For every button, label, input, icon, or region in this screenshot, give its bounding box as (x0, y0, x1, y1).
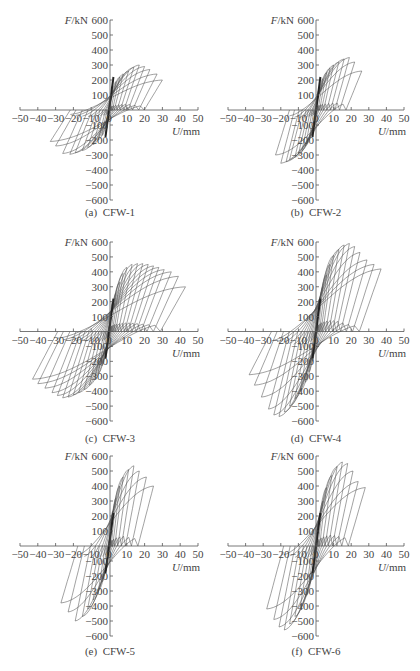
y-tick-label: 100 (92, 311, 109, 323)
y-tick-label: −200 (85, 570, 108, 582)
x-tick-label: −50 (219, 112, 237, 124)
chart-caption: (e) CFW-5 (85, 645, 136, 658)
x-tick-label: 0 (313, 334, 319, 346)
y-tick-label: 600 (298, 450, 315, 462)
chart-caption: (b) CFW-2 (291, 206, 342, 219)
y-tick-label: −600 (85, 630, 108, 642)
y-tick-label: 500 (92, 251, 109, 263)
x-tick-label: 50 (193, 112, 205, 124)
x-tick-label: −30 (255, 334, 273, 346)
y-tick-label: −600 (85, 194, 108, 206)
y-tick-label: 300 (298, 59, 315, 71)
y-tick-label: 500 (298, 29, 315, 41)
hysteresis-loop (249, 269, 381, 375)
x-tick-label: −30 (255, 112, 273, 124)
x-tick-label: 20 (346, 548, 358, 560)
x-tick-label: 30 (363, 334, 375, 346)
y-tick-label: −500 (85, 179, 108, 191)
x-tick-label: 20 (346, 112, 358, 124)
x-tick-label: 40 (381, 112, 393, 124)
x-axis-label: U/mm (378, 125, 407, 137)
x-tick-label: 50 (399, 334, 411, 346)
y-tick-label: 300 (92, 59, 109, 71)
x-tick-label: −40 (237, 548, 255, 560)
y-tick-label: −100 (291, 119, 314, 131)
y-tick-label: −500 (85, 400, 108, 412)
x-tick-label: 30 (157, 112, 169, 124)
y-tick-label: 100 (92, 89, 109, 101)
y-tick-label: 300 (298, 281, 315, 293)
y-tick-label: 100 (92, 525, 109, 537)
x-tick-label: −50 (219, 334, 237, 346)
y-tick-label: −600 (291, 415, 314, 427)
y-tick-label: −200 (291, 355, 314, 367)
x-tick-label: −40 (29, 112, 47, 124)
x-tick-label: 30 (363, 548, 375, 560)
chart-panel-c: −50−40−30−20−100102030405060050040030020… (11, 236, 204, 445)
x-tick-label: −30 (255, 548, 273, 560)
chart-caption: (d) CFW-4 (291, 432, 342, 445)
hysteresis-loop (254, 264, 374, 385)
x-tick-label: −20 (272, 334, 290, 346)
chart-panel-d: −50−40−30−20−100102030405060050040030020… (219, 236, 410, 445)
x-tick-label: −30 (47, 548, 65, 560)
x-tick-label: −40 (29, 548, 47, 560)
y-axis-label: F/kN (270, 236, 294, 248)
x-tick-label: 10 (328, 334, 340, 346)
y-tick-label: 500 (298, 465, 315, 477)
y-tick-label: 400 (298, 480, 315, 492)
x-tick-label: 40 (175, 334, 187, 346)
hysteresis-loops (249, 244, 381, 417)
x-tick-label: 10 (328, 112, 340, 124)
x-tick-label: −20 (65, 334, 83, 346)
x-tick-label: −30 (47, 334, 65, 346)
x-tick-label: −20 (272, 548, 290, 560)
y-tick-label: −200 (291, 134, 314, 146)
y-tick-label: 500 (92, 465, 109, 477)
y-tick-label: −100 (85, 340, 108, 352)
x-tick-label: −40 (29, 334, 47, 346)
x-tick-label: 30 (363, 112, 375, 124)
y-tick-label: 500 (298, 251, 315, 263)
y-tick-label: 200 (92, 74, 109, 86)
chart-caption: (f) CFW-6 (292, 645, 341, 658)
x-tick-label: −20 (65, 548, 83, 560)
y-tick-label: −300 (85, 149, 108, 161)
x-tick-label: 20 (346, 334, 358, 346)
y-tick-label: 600 (92, 236, 109, 248)
x-tick-label: −40 (237, 112, 255, 124)
x-axis-label: U/mm (172, 561, 201, 573)
y-tick-label: −300 (291, 149, 314, 161)
y-axis-label: F/kN (64, 450, 88, 462)
y-tick-label: −100 (85, 119, 108, 131)
y-tick-label: 200 (298, 510, 315, 522)
x-tick-label: 10 (121, 112, 133, 124)
x-tick-label: −20 (272, 112, 290, 124)
y-tick-label: −400 (291, 600, 314, 612)
y-tick-label: 400 (298, 266, 315, 278)
y-tick-label: −300 (85, 370, 108, 382)
y-tick-label: −400 (85, 164, 108, 176)
y-tick-label: −200 (291, 570, 314, 582)
y-tick-label: 300 (92, 281, 109, 293)
x-tick-label: 0 (313, 548, 319, 560)
x-tick-label: 40 (175, 548, 187, 560)
y-tick-label: −100 (85, 555, 108, 567)
x-tick-label: 10 (121, 334, 133, 346)
y-tick-label: −400 (291, 164, 314, 176)
y-tick-label: −600 (291, 630, 314, 642)
y-tick-label: −100 (291, 555, 314, 567)
y-axis-label: F/kN (270, 450, 294, 462)
x-tick-label: 50 (193, 334, 205, 346)
x-tick-label: −50 (11, 334, 29, 346)
x-tick-label: 30 (157, 334, 169, 346)
x-axis-label: U/mm (378, 347, 407, 359)
chart-panel-b: −50−40−30−20−100102030405060050040030020… (219, 14, 410, 219)
x-tick-label: 50 (399, 548, 411, 560)
y-tick-label: 400 (298, 44, 315, 56)
y-tick-label: −200 (85, 355, 108, 367)
x-tick-label: 20 (139, 334, 151, 346)
x-tick-label: 40 (381, 548, 393, 560)
x-tick-label: −50 (11, 548, 29, 560)
y-tick-label: −300 (291, 585, 314, 597)
